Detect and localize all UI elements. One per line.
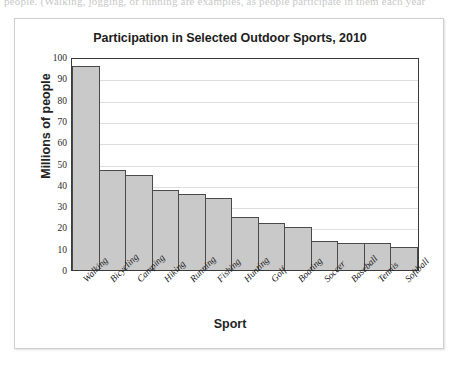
y-axis-tick-label: 90: [58, 74, 68, 84]
y-axis-tick-label: 60: [58, 138, 68, 148]
y-axis-tick-label: 50: [58, 160, 68, 170]
bar-walking: [72, 66, 100, 270]
chart-figure-card: Participation in Selected Outdoor Sports…: [14, 18, 444, 349]
bar-series: [72, 59, 418, 270]
y-axis-tick-labels: 1009080706050403020100: [25, 58, 67, 271]
y-axis-tick-label: 40: [58, 181, 68, 191]
page-top-text-sliver: people. (Walking, jogging, or running ar…: [0, 0, 461, 7]
bar-running: [178, 194, 206, 270]
y-axis-tick-label: 0: [62, 266, 67, 276]
x-axis-title: Sport: [15, 317, 445, 331]
y-axis-tick-label: 30: [58, 202, 68, 212]
y-axis-tick-label: 80: [58, 96, 68, 106]
y-axis-tick-label: 20: [58, 223, 68, 233]
y-axis-tick-label: 10: [58, 245, 68, 255]
y-axis-tick-label: 100: [53, 53, 67, 63]
page-top-text-sliver-text: people. (Walking, jogging, or running ar…: [4, 0, 425, 7]
chart-title: Participation in Selected Outdoor Sports…: [15, 31, 445, 45]
plot-area: [71, 58, 419, 271]
y-axis-tick-label: 70: [58, 117, 68, 127]
